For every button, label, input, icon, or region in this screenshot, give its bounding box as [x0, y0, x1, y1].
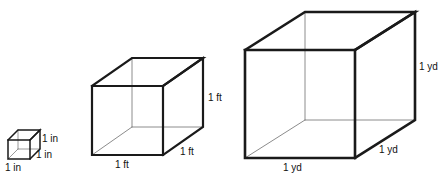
- label-cubic-yard-bottom-right: 1 yd: [379, 145, 398, 155]
- label-cubic-yard-right: 1 yd: [419, 62, 438, 72]
- cube-foot-top-face: [92, 58, 203, 86]
- cube-yard-right-face: [355, 12, 415, 158]
- cube-foot-front-face: [92, 86, 163, 155]
- cube-cubic-yard: [245, 12, 415, 158]
- label-cubic-foot-bottom-right: 1 ft: [180, 147, 194, 157]
- label-cubic-yard-bottom-left: 1 yd: [283, 163, 302, 173]
- cube-yard-top-face: [245, 12, 415, 50]
- cube-foot-right-face: [163, 58, 203, 155]
- cube-cubic-foot: [92, 58, 203, 155]
- label-cubic-foot-right: 1 ft: [208, 93, 222, 103]
- label-cubic-inch-bottom-right: 1 in: [36, 150, 52, 160]
- cube-yard-front-face: [245, 50, 355, 158]
- figure-canvas: 1 in 1 in 1 in 1 ft 1 ft 1 ft 1 yd 1 yd …: [0, 0, 446, 181]
- label-cubic-inch-bottom-left: 1 in: [5, 163, 21, 173]
- label-cubic-inch-right: 1 in: [42, 134, 58, 144]
- label-cubic-foot-bottom-left: 1 ft: [115, 160, 129, 170]
- cube-foot-hidden-edges: [92, 58, 203, 155]
